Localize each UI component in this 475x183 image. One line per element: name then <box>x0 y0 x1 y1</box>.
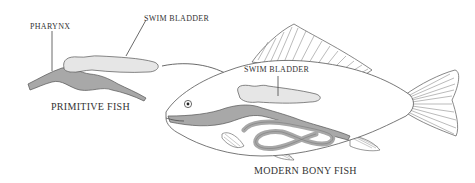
diagram-canvas: PHARYNX SWIM BLADDER PRIMITIVE FISH SWIM… <box>0 0 475 183</box>
modern-fish <box>166 24 459 160</box>
pharynx-label: PHARYNX <box>30 22 70 31</box>
primitive-fish-title: PRIMITIVE FISH <box>51 101 130 112</box>
modern-swim-bladder-label: SWIM BLADDER <box>244 65 309 74</box>
primitive-swim-bladder-leader <box>126 20 146 56</box>
modern-fish-title: MODERN BONY FISH <box>254 165 357 176</box>
diagram-illustration <box>0 0 475 183</box>
primitive-fish <box>28 20 158 101</box>
primitive-swim-bladder-label: SWIM BLADDER <box>144 14 209 23</box>
primitive-swim-bladder <box>64 56 159 73</box>
